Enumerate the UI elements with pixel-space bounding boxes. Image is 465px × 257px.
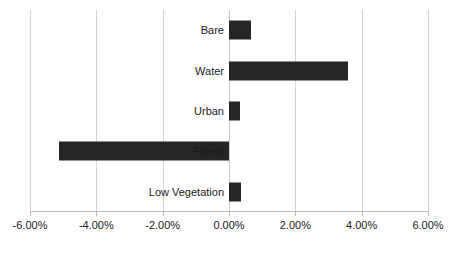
category-label: Bare [201,24,229,37]
bar-row: Low Vegetation [0,172,465,212]
x-tick-label: -2.00% [145,219,180,232]
x-tick-label: -4.00% [79,219,114,232]
bar-row: Bare [0,10,465,50]
x-tick-mark [362,212,363,216]
category-label: Low Vegetation [149,185,229,198]
bar-row: Urban [0,91,465,131]
x-tick-label: 0.00% [213,219,244,232]
bar-row: Water [0,50,465,90]
x-tick-label: 6.00% [412,219,443,232]
x-tick-mark [163,212,164,216]
x-tick-mark [428,212,429,216]
category-label: Forest [193,145,229,158]
x-tick-label: 2.00% [280,219,311,232]
x-tick-mark [96,212,97,216]
x-tick-label: 4.00% [346,219,377,232]
x-tick-mark [229,212,230,216]
x-tick-label: -6.00% [13,219,48,232]
bar[interactable] [229,101,240,120]
x-tick-mark [30,212,31,216]
bar-row: Forest [0,131,465,171]
bar[interactable] [229,61,348,80]
bar-chart: -6.00%-4.00%-2.00%0.00%2.00%4.00%6.00% B… [0,0,465,257]
x-tick-mark [295,212,296,216]
bar[interactable] [229,182,241,201]
bar[interactable] [229,21,251,40]
category-label: Urban [194,104,229,117]
category-label: Water [195,64,229,77]
